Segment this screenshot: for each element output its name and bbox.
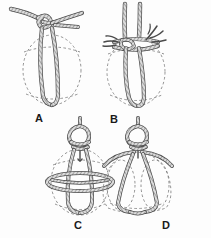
figure-container: A B C D	[0, 0, 211, 238]
panel-label-a: A	[35, 113, 43, 124]
panel-label-d: D	[162, 220, 170, 231]
panel-label-b: B	[110, 114, 118, 125]
panel-label-c: C	[74, 220, 82, 231]
knot-diagram-svg	[0, 0, 211, 238]
